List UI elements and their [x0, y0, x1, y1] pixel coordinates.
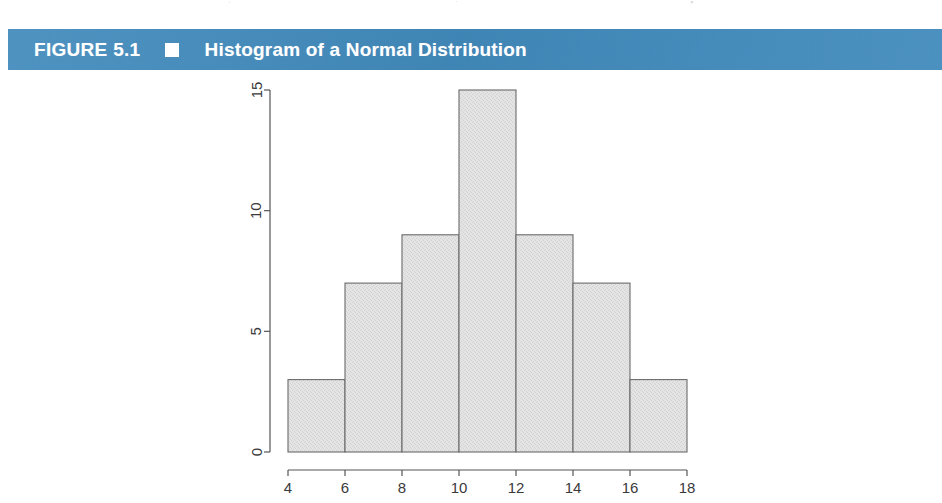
histogram-chart: 0510154681012141618 [0, 70, 942, 503]
y-axis-tick-label: 15 [248, 82, 265, 99]
x-axis: 4681012141618 [284, 470, 696, 496]
figure-title: Histogram of a Normal Distribution [204, 39, 526, 61]
scan-artifact-center: · [455, 0, 458, 6]
histogram-bar [516, 235, 573, 452]
histogram-bar [402, 235, 459, 452]
y-axis: 051015 [248, 82, 271, 457]
figure-number: FIGURE 5.1 [34, 39, 140, 61]
histogram-bar [573, 283, 630, 452]
x-axis-tick-label: 14 [565, 479, 582, 496]
x-axis-tick-label: 18 [679, 479, 696, 496]
histogram-bar [345, 283, 402, 452]
x-axis-tick-label: 12 [508, 479, 525, 496]
histogram-bar [459, 90, 516, 452]
x-axis-tick-label: 6 [341, 479, 349, 496]
histogram-bar [630, 380, 687, 452]
y-axis-tick-label: 5 [248, 327, 265, 335]
x-axis-tick-label: 4 [284, 479, 292, 496]
histogram-svg: 0510154681012141618 [0, 70, 942, 503]
scan-artifact-left: · [228, 0, 231, 7]
histogram-bar [288, 380, 345, 452]
filled-square-icon [165, 43, 179, 57]
y-axis-tick-label: 10 [248, 202, 265, 219]
x-axis-tick-label: 8 [398, 479, 406, 496]
y-axis-tick-label: 0 [248, 448, 265, 456]
x-axis-tick-label: 10 [451, 479, 468, 496]
bars-group [288, 90, 687, 452]
x-axis-tick-label: 16 [622, 479, 639, 496]
scan-artifact-right: ▪ [690, 0, 693, 7]
figure-caption-bar: FIGURE 5.1 Histogram of a Normal Distrib… [8, 29, 942, 70]
